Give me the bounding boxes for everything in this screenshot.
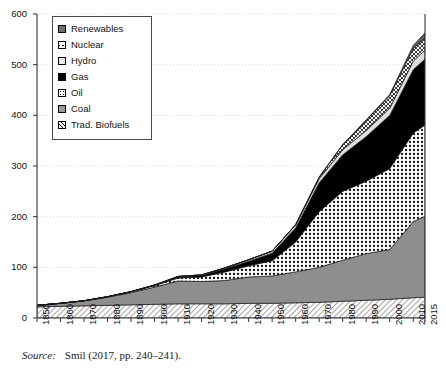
gas-swatch-icon (58, 73, 66, 81)
y-tick-label: 300 (1, 161, 27, 171)
y-axis-ticks (33, 14, 37, 318)
legend-label: Hydro (71, 56, 96, 66)
x-tick-label: 2000 (394, 304, 404, 325)
source-note: Source:Smil (2017, pp. 240–241). (22, 349, 181, 361)
y-tick-label: 0 (1, 313, 27, 323)
x-tick-label: 1870 (88, 304, 98, 325)
x-tick-label: 1850 (41, 304, 51, 325)
x-tick-label: 1930 (229, 304, 239, 325)
legend-item-gas: Gas (58, 69, 151, 85)
legend-item-oil: Oil (58, 85, 151, 101)
legend-label: Renewables (71, 24, 123, 34)
x-tick-label: 1950 (276, 304, 286, 325)
legend-label: Coal (71, 104, 91, 114)
y-tick-label: 500 (1, 60, 27, 70)
coal-swatch-icon (58, 105, 66, 113)
legend-label: Oil (71, 88, 83, 98)
legend-item-hydro: Hydro (58, 53, 151, 69)
x-tick-label: 1940 (253, 304, 263, 325)
x-tick-label: 1980 (347, 304, 357, 325)
legend-label: Trad. Biofuels (71, 120, 129, 130)
source-label: Source: (22, 349, 56, 361)
x-tick-label: 2010 (417, 304, 427, 325)
x-tick-label: 1890 (135, 304, 145, 325)
y-tick-label: 600 (1, 9, 27, 19)
x-tick-label: 1920 (206, 304, 216, 325)
y-tick-label: 200 (1, 212, 27, 222)
energy-consumption-figure: 0100200300400500600 18501860187018801890… (0, 0, 446, 371)
legend-item-biofuels: Trad. Biofuels (58, 117, 151, 133)
biofuels-swatch-icon (58, 121, 66, 129)
source-text: Smil (2017, pp. 240–241). (65, 349, 181, 361)
chart-legend: Renewables Nuclear Hydro Gas Oil Coal Tr… (52, 16, 152, 140)
x-tick-label: 1880 (112, 304, 122, 325)
x-tick-label: 1910 (182, 304, 192, 325)
renewables-swatch-icon (58, 25, 66, 33)
x-tick-label: 1990 (370, 304, 380, 325)
legend-item-nuclear: Nuclear (58, 37, 151, 53)
legend-label: Nuclear (71, 40, 104, 50)
y-tick-label: 400 (1, 110, 27, 120)
hydro-swatch-icon (58, 57, 66, 65)
x-tick-label: 1860 (65, 304, 75, 325)
legend-item-coal: Coal (58, 101, 151, 117)
x-tick-label: 1970 (323, 304, 333, 325)
oil-swatch-icon (58, 89, 66, 97)
x-tick-label: 1960 (300, 304, 310, 325)
y-tick-label: 100 (1, 262, 27, 272)
legend-label: Gas (71, 72, 88, 82)
x-tick-label: 1900 (159, 304, 169, 325)
legend-item-renewables: Renewables (58, 21, 151, 37)
nuclear-swatch-icon (58, 41, 66, 49)
x-tick-label: 2015 (429, 304, 439, 325)
